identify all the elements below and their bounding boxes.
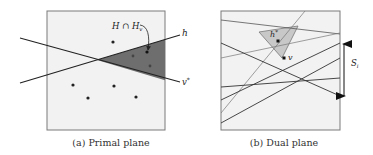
point: [134, 95, 137, 98]
primal-plane-panel: h v* H ∩ Hv: [20, 11, 190, 130]
label-intersection: H ∩ Hv: [111, 21, 143, 32]
point: [111, 40, 114, 43]
point: [86, 96, 89, 99]
point: [71, 83, 74, 86]
label-v-star: v*: [182, 76, 190, 87]
label-v: v: [288, 53, 293, 62]
label-s-i: Si: [351, 58, 359, 69]
point: [132, 55, 135, 58]
label-h: h: [182, 28, 188, 38]
point: [145, 50, 148, 53]
caption-primal-plane: (a) Primal plane: [56, 137, 166, 148]
point: [112, 84, 115, 87]
figure: h v* H ∩ Hv: [0, 0, 373, 155]
dual-plane-panel: h* v Si: [221, 11, 359, 130]
point-h-star: [277, 40, 280, 43]
figure-canvas: h v* H ∩ Hv: [0, 0, 373, 155]
point: [149, 65, 152, 68]
caption-dual-plane: (b) Dual plane: [229, 137, 339, 148]
point-v: [283, 57, 286, 60]
